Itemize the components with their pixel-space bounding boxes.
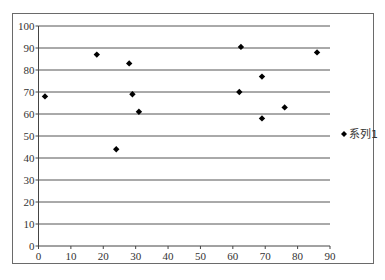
y-tick-label: 80 [24,64,36,76]
data-point-diamond-icon [94,51,100,57]
y-tick-label: 10 [24,218,36,230]
axes [36,26,331,249]
y-tick-label: 40 [24,152,36,164]
data-point-diamond-icon [126,60,132,66]
x-tick-label: 40 [163,250,175,262]
data-point-diamond-icon [236,89,242,95]
data-point-diamond-icon [314,49,320,55]
data-point-diamond-icon [259,115,265,121]
x-tick-label: 30 [130,250,142,262]
y-tick-label: 0 [29,240,35,252]
y-tick-label: 60 [24,108,36,120]
gridlines [39,26,331,224]
x-tick-label: 0 [36,250,42,262]
legend-label: 系列1 [349,127,378,141]
x-tick-label: 10 [65,250,77,262]
y-tick-label: 50 [24,130,36,142]
data-point-diamond-icon [238,44,244,50]
x-tick-label: 20 [98,250,110,262]
y-tick-label: 100 [18,20,35,32]
data-point-diamond-icon [259,73,265,79]
y-axis-tick-labels: 0102030405060708090100 [18,20,35,252]
data-point-diamond-icon [113,146,119,152]
x-tick-label: 80 [292,250,304,262]
scatter-chart: 0102030405060708090100 01020304050607080… [0,0,385,280]
y-tick-label: 20 [24,196,36,208]
legend-diamond-icon [341,131,347,137]
x-tick-label: 50 [195,250,207,262]
x-tick-label: 70 [260,250,272,262]
legend: 系列1 [341,127,378,141]
data-point-diamond-icon [281,104,287,110]
data-point-diamond-icon [42,93,48,99]
y-tick-label: 90 [24,42,36,54]
x-axis-tick-labels: 0102030405060708090 [36,250,336,262]
y-tick-label: 70 [24,86,36,98]
y-tick-label: 30 [24,174,36,186]
x-tick-label: 90 [325,250,337,262]
x-tick-label: 60 [227,250,239,262]
